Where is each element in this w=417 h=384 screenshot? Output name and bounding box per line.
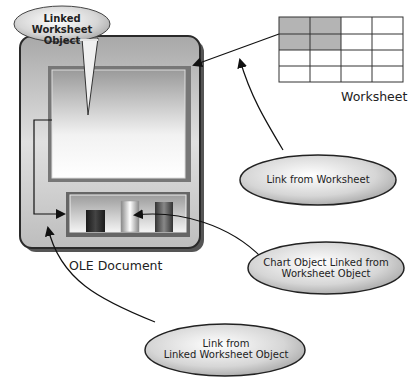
callout-line: Link from: [150, 338, 302, 349]
linked-worksheet-object: [48, 66, 191, 182]
callout-line: Chart Object Linked from: [250, 257, 402, 268]
callout-chart-linked-text: Chart Object Linked from Worksheet Objec…: [250, 257, 402, 279]
callout-link-from-linked-text: Link from Linked Worksheet Object: [150, 338, 302, 360]
callout-linked-worksheet-object-text: Linked Worksheet Object: [14, 13, 110, 46]
worksheet-label: Worksheet: [341, 89, 407, 104]
callout-line: Worksheet Object: [250, 268, 402, 279]
link-from-worksheet-curve: [240, 60, 283, 150]
worksheet-to-object-arrow: [194, 34, 279, 65]
callout-line: Object: [14, 35, 110, 46]
callout-line: Linked Worksheet: [14, 13, 110, 35]
callout-line: Link from Worksheet: [245, 174, 391, 185]
worksheet-grid: [279, 17, 403, 82]
callout-line: Linked Worksheet Object: [150, 349, 302, 360]
callout-link-from-worksheet-text: Link from Worksheet: [245, 174, 391, 185]
chart-bar-1: [86, 210, 105, 232]
chart-bar-3: [155, 202, 173, 232]
ole-document-label: OLE Document: [69, 258, 162, 273]
chart-object: [66, 192, 190, 237]
chart-bar-2: [121, 201, 139, 232]
diagram-canvas: [0, 0, 417, 384]
